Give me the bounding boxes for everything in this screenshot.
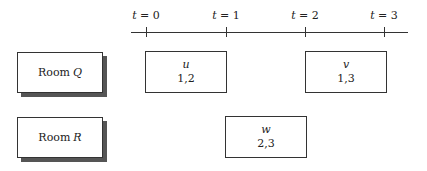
room-label: Room	[38, 66, 70, 79]
room-r-box: RoomR	[17, 117, 103, 158]
tick-label-t3: t = 3	[364, 9, 404, 22]
tick-label-t0: t = 0	[126, 9, 166, 22]
task-values: 2,3	[257, 137, 275, 151]
task-name: u	[182, 58, 189, 72]
tick-t1	[226, 27, 227, 37]
equals: =	[137, 9, 153, 22]
tick-t2	[305, 27, 306, 37]
tick-t0	[146, 27, 147, 37]
time-value: 1	[233, 9, 240, 22]
tick-label-t2: t = 2	[285, 9, 325, 22]
task-w-box: w 2,3	[225, 116, 307, 158]
time-value: 2	[312, 9, 319, 22]
task-v-box: v 1,3	[305, 51, 387, 93]
task-u-box: u 1,2	[145, 51, 227, 93]
equals: =	[296, 9, 312, 22]
timeline-axis	[131, 32, 408, 33]
room-q-box: RoomQ	[17, 52, 103, 93]
tick-t3	[384, 27, 385, 37]
task-name: v	[343, 58, 349, 72]
time-value: 3	[391, 9, 398, 22]
equals: =	[375, 9, 391, 22]
room-name: Q	[73, 66, 82, 79]
equals: =	[217, 9, 233, 22]
room-name: R	[73, 131, 81, 144]
time-value: 0	[153, 9, 160, 22]
room-label: Room	[38, 131, 70, 144]
task-values: 1,2	[177, 72, 195, 86]
tick-label-t1: t = 1	[206, 9, 246, 22]
task-name: w	[261, 123, 270, 137]
task-values: 1,3	[337, 72, 355, 86]
